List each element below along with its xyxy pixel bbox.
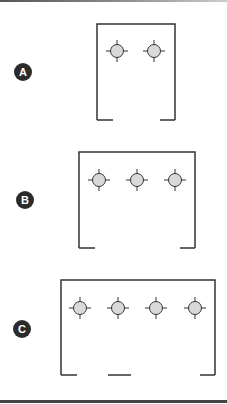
light-fixture-icon <box>143 40 165 62</box>
panel-label: A <box>19 66 27 78</box>
light-fixture-icon <box>164 169 186 191</box>
panel-label-badge: B <box>16 191 34 209</box>
light-fixture-icon <box>69 297 91 319</box>
light-fixture-icon <box>184 297 206 319</box>
room-outline <box>79 152 195 248</box>
panel-c: C <box>13 280 215 375</box>
light-fixture-icon <box>126 169 148 191</box>
panel-label-badge: A <box>14 63 32 81</box>
panel-b: B <box>16 152 195 248</box>
bottom-rule <box>0 400 227 403</box>
light-fixture-icon <box>107 297 129 319</box>
panel-label-badge: C <box>13 320 31 338</box>
panel-label: C <box>18 323 26 335</box>
room-outline <box>97 24 175 120</box>
room-outline <box>61 280 215 375</box>
light-fixture-icon <box>145 297 167 319</box>
panel-a: A <box>14 24 175 120</box>
light-fixture-icon <box>88 169 110 191</box>
light-fixture-icon <box>106 40 128 62</box>
panel-label: B <box>21 194 29 206</box>
fixture-layout-diagram: ABC <box>0 0 227 404</box>
